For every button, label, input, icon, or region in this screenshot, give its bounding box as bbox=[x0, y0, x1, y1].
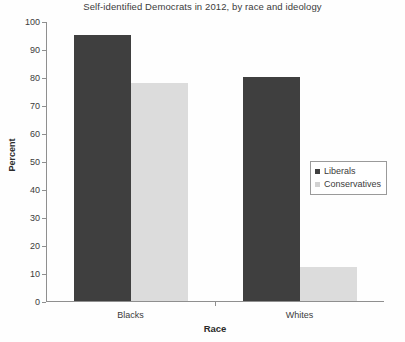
bar-whites-liberals bbox=[243, 77, 300, 301]
y-axis-tick-label: 0 bbox=[4, 298, 40, 307]
y-axis-tick-label: 70 bbox=[4, 102, 40, 111]
legend-item-liberals: Liberals bbox=[315, 165, 381, 178]
y-axis-tick-label: 40 bbox=[4, 186, 40, 195]
y-axis-tick-mark bbox=[42, 162, 46, 163]
x-axis-category-label: Blacks bbox=[117, 310, 144, 320]
y-axis-tick-label: 100 bbox=[4, 18, 40, 27]
legend-swatch-conservatives-icon bbox=[315, 182, 320, 187]
legend-swatch-liberals-icon bbox=[315, 169, 320, 174]
y-axis-tick-mark bbox=[42, 246, 46, 247]
chart-title: Self-identified Democrats in 2012, by ra… bbox=[0, 1, 405, 12]
y-axis-tick-mark bbox=[42, 50, 46, 51]
legend-item-conservatives: Conservatives bbox=[315, 178, 381, 191]
legend-label: Liberals bbox=[324, 167, 356, 176]
y-axis-tick-mark bbox=[42, 274, 46, 275]
chart-legend: LiberalsConservatives bbox=[310, 161, 387, 195]
bar-blacks-conservatives bbox=[131, 83, 188, 301]
y-axis-tick-label: 20 bbox=[4, 242, 40, 251]
chart-figure: Self-identified Democrats in 2012, by ra… bbox=[0, 0, 405, 342]
y-axis-tick-mark bbox=[42, 22, 46, 23]
y-axis-tick-mark bbox=[42, 218, 46, 219]
x-axis-tick-mark bbox=[215, 302, 216, 306]
y-axis-tick-mark bbox=[42, 190, 46, 191]
y-axis-line bbox=[46, 22, 47, 302]
y-axis-tick-label: 50 bbox=[4, 158, 40, 167]
y-axis-tick-mark bbox=[42, 134, 46, 135]
y-axis-tick-label: 90 bbox=[4, 46, 40, 55]
bar-whites-conservatives bbox=[300, 267, 357, 301]
y-axis-tick-label: 80 bbox=[4, 74, 40, 83]
y-axis-tick-label: 30 bbox=[4, 214, 40, 223]
y-axis-tick-label: 10 bbox=[4, 270, 40, 279]
y-axis-tick-label: 60 bbox=[4, 130, 40, 139]
legend-label: Conservatives bbox=[324, 180, 381, 189]
y-axis-tick-mark bbox=[42, 106, 46, 107]
y-axis-tick-mark bbox=[42, 302, 46, 303]
bar-blacks-liberals bbox=[74, 35, 131, 301]
y-axis-tick-mark bbox=[42, 78, 46, 79]
x-axis-category-label: Whites bbox=[286, 310, 314, 320]
x-axis-title: Race bbox=[46, 323, 384, 334]
